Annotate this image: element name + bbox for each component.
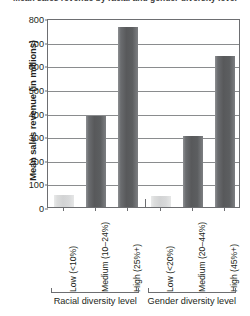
bar <box>54 195 74 207</box>
group-label: Racial diversity level <box>51 296 139 306</box>
y-axis-tick-mark <box>45 161 48 162</box>
x-axis-tick-mark <box>160 208 161 211</box>
x-axis-tick-label: High (45%+) <box>228 212 240 292</box>
x-axis-tick-label: High (25%+) <box>131 212 143 292</box>
bar <box>118 27 138 207</box>
bar <box>151 196 171 207</box>
y-axis-tick-label: 200 <box>4 157 44 167</box>
bar <box>183 136 203 207</box>
group-bracket <box>51 288 139 293</box>
gridline <box>48 162 239 163</box>
y-axis-tick-mark <box>45 114 48 115</box>
y-axis-tick-mark <box>45 209 48 210</box>
y-axis-tick-label: 400 <box>4 110 44 120</box>
y-axis-tick-mark <box>45 67 48 68</box>
y-axis-tick-label: 300 <box>4 133 44 143</box>
y-axis-tick-label: 600 <box>4 62 44 72</box>
gridline <box>48 67 239 68</box>
x-axis-tick-mark <box>63 208 64 211</box>
y-axis-tick-mark <box>45 20 48 21</box>
bar <box>215 56 235 207</box>
y-axis-tick-label: 500 <box>4 86 44 96</box>
gridline <box>48 185 239 186</box>
plot-area: 0100200300400500600700800 <box>47 19 240 208</box>
x-axis-tick-label: Medium (10–24%) <box>99 212 111 292</box>
gridline <box>48 138 239 139</box>
y-axis-tick-mark <box>45 90 48 91</box>
x-axis-tick-mark <box>224 208 225 211</box>
x-axis-tick-label: Low (<20%) <box>164 212 176 292</box>
bar <box>86 116 106 207</box>
y-axis-tick-label: 0 <box>4 204 44 214</box>
group-label: Gender diversity level <box>148 296 236 306</box>
x-axis-tick-mark <box>95 208 96 211</box>
x-axis-tick-mark <box>127 208 128 211</box>
gridline <box>48 115 239 116</box>
y-axis-tick-mark <box>45 138 48 139</box>
y-axis-tick-mark <box>45 43 48 44</box>
y-axis-tick-label: 800 <box>4 15 44 25</box>
x-axis-tick-label: Low (<10%) <box>67 212 79 292</box>
chart-title: Mean sales revenue by racial and gender … <box>0 0 250 4</box>
y-axis-tick-label: 700 <box>4 39 44 49</box>
x-axis-tick-label: Medium (20–44%) <box>196 212 208 292</box>
gridline <box>48 91 239 92</box>
y-axis-tick-mark <box>45 185 48 186</box>
group-bracket <box>148 288 236 293</box>
y-axis-tick-label: 100 <box>4 180 44 190</box>
x-axis-tick-mark <box>192 208 193 211</box>
group-divider-tick <box>145 199 146 207</box>
gridline <box>48 44 239 45</box>
